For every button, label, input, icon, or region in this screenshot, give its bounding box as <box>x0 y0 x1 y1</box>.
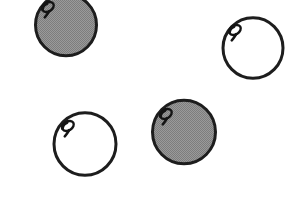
top-right-unshaded-circle <box>223 18 283 79</box>
bottom-left-unshaded-circle <box>54 113 116 176</box>
figure-canvas: Four circles with stem marks Line drawin… <box>0 0 300 199</box>
top-left-shaded-circle-body <box>36 0 97 56</box>
bottom-left-unshaded-circle-body <box>54 113 116 176</box>
bottom-right-shaded-circle <box>153 100 216 164</box>
circles-figure-svg <box>0 0 300 199</box>
top-left-shaded-circle <box>36 0 97 56</box>
bottom-right-shaded-circle-body <box>153 100 216 164</box>
